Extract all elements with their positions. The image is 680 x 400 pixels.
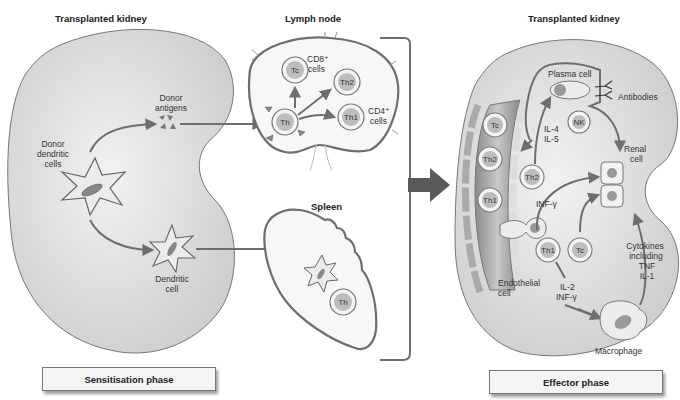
inf-gamma-2-label: INF-γ <box>556 292 578 302</box>
cytokines-label-4: IL-1 <box>640 271 655 281</box>
macrophage-label: Macrophage <box>595 346 643 356</box>
lymph-node-th2-cell: Th2 <box>334 69 360 95</box>
il4-label: IL-4 <box>544 124 559 134</box>
nk-label: NK <box>573 118 585 127</box>
diagram-canvas: Transplanted kidney Donor dendritic cell… <box>0 0 680 400</box>
effector-phase-label: Effector phase <box>489 370 663 394</box>
left-panel-title: Transplanted kidney <box>55 13 148 24</box>
sensitisation-phase-label: Sensitisation phase <box>42 367 216 391</box>
donor-dendritic-cells-label-2: dendritic <box>37 149 70 159</box>
tc-cell: Tc <box>568 238 592 262</box>
kidney-shape <box>8 29 235 353</box>
dendritic-cell-label-1: Dendritic <box>155 274 189 284</box>
endothelial-cell-label-1: Endothelial <box>498 278 540 288</box>
vessel-th1-cell: Th1 <box>478 188 502 212</box>
cd4-label-1: CD4⁺ <box>368 106 390 116</box>
endothelial-cell-label-2: cell <box>498 288 511 298</box>
lymph-node <box>249 32 398 170</box>
lymph-node-tc-cell: Tc <box>282 57 308 83</box>
cd4-label-2: cells <box>370 116 387 126</box>
vessel-tc-label: Tc <box>491 121 499 130</box>
dendritic-cell-label-2: cell <box>166 284 179 294</box>
donor-antigens-label-2: antigens <box>155 103 187 113</box>
lymph-th-label: Th <box>280 118 289 127</box>
spleen-th-label: Th <box>338 298 347 307</box>
renal-cell-label-1: Renal <box>624 144 646 154</box>
il5-label: IL-5 <box>544 134 559 144</box>
lymph-th2-label: Th2 <box>340 78 354 87</box>
lymph-node-title: Lymph node <box>285 13 341 24</box>
vessel-tc-cell: Tc <box>483 113 507 137</box>
cd8-label-1: CD8⁺ <box>307 54 329 64</box>
renal-cell-label-2: cell <box>630 154 643 164</box>
big-transition-arrow-icon <box>408 168 450 202</box>
th1-label: Th1 <box>541 246 555 255</box>
plasma-cell-label: Plasma cell <box>548 69 592 79</box>
vessel-th2-cell: Th2 <box>478 147 502 171</box>
spleen-th-cell: Th <box>330 289 356 315</box>
inf-gamma-label: INF-γ <box>536 199 558 209</box>
lymph-node-th1-cell: Th1 <box>338 104 364 130</box>
cytokines-label-2: including <box>629 251 663 261</box>
left-kidney <box>8 29 235 353</box>
tc-label: Tc <box>576 246 584 255</box>
vessel-th2-label: Th2 <box>483 155 497 164</box>
th1-cell: Th1 <box>536 238 560 262</box>
donor-dendritic-cells-label-1: Donor <box>41 139 64 149</box>
right-panel-title: Transplanted kidney <box>528 13 621 24</box>
donor-antigens-label-1: Donor <box>159 93 182 103</box>
th2-label: Th2 <box>525 173 539 182</box>
plasma-cell-icon <box>550 81 590 99</box>
cytokines-label-1: Cytokines <box>626 241 663 251</box>
donor-dendritic-cells-label-3: cells <box>44 159 61 169</box>
cd8-label-2: cells <box>308 64 325 74</box>
vessel-th1-label: Th1 <box>483 196 497 205</box>
nk-cell: NK <box>568 111 590 133</box>
il2-label: IL-2 <box>560 282 575 292</box>
lymph-th1-label: Th1 <box>344 113 358 122</box>
th2-cell: Th2 <box>520 165 544 189</box>
cytokines-label-3: TNF <box>639 261 656 271</box>
lymph-tc-label: Tc <box>291 66 299 75</box>
antibodies-label: Antibodies <box>618 92 658 102</box>
spleen-title: Spleen <box>311 201 342 212</box>
